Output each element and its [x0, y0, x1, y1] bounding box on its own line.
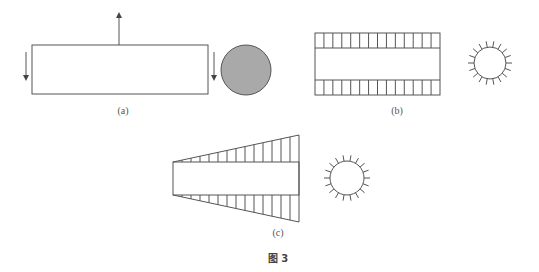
ticked-circle-b [468, 41, 512, 84]
figure-caption: 图 3 [268, 250, 288, 265]
ticked-circle-c [324, 155, 370, 200]
panel-c-label: (c) [272, 227, 283, 238]
bar-rectangle [173, 162, 299, 195]
panel-a [26, 15, 271, 95]
bar-rectangle [32, 45, 208, 94]
solid-section-circle [221, 45, 271, 95]
panel-a-label: (a) [117, 105, 128, 116]
figure-canvas [0, 0, 539, 272]
panel-b-label: (b) [391, 105, 403, 116]
panel-b [315, 33, 440, 95]
panel-c [173, 135, 299, 222]
